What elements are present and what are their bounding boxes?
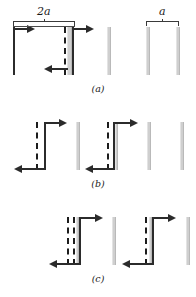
gray-strip-c-trail: [186, 217, 190, 265]
arrow-left-c-right: [122, 260, 130, 268]
gray-strip-b-left: [76, 122, 80, 170]
solid-line-c-left: [79, 217, 81, 265]
arrow-right-b-left: [59, 119, 67, 127]
gray-strip-b-trail-2: [180, 122, 184, 170]
panel-c: (c): [0, 195, 196, 297]
panel-a: 2a a (a): [0, 0, 196, 100]
dimension-bracket-a-tick: [162, 19, 163, 22]
arrow-right-c-left: [95, 214, 103, 222]
solid-line-a-left: [13, 27, 15, 75]
top-connector-b-right: [113, 122, 131, 124]
solid-line-c-right: [152, 217, 154, 265]
dashed-line-c-left-2: [73, 217, 75, 265]
arrow-left-b-right: [85, 165, 93, 173]
top-connector-c-right: [152, 217, 169, 219]
top-connector-a-left: [13, 28, 28, 30]
arrow-left-c-left: [49, 260, 57, 268]
panel-caption-c: (c): [0, 273, 196, 284]
top-connector-b-left: [44, 122, 60, 124]
solid-line-a-center-right: [72, 27, 74, 75]
solid-line-b-left: [44, 122, 46, 170]
top-connector-a-center: [73, 28, 87, 30]
dimension-label-2a: 2a: [37, 5, 51, 18]
dashed-line-b-left: [36, 122, 38, 170]
arrow-left-a: [44, 65, 52, 73]
bottom-connector-b-left: [22, 168, 46, 170]
bottom-connector-a: [52, 68, 68, 70]
figure-root: 2a a (a): [0, 0, 196, 297]
gray-strip-c-middle: [112, 217, 116, 265]
gray-strip-a-right-1: [146, 27, 150, 75]
dimension-bracket-2a-tick: [44, 19, 45, 22]
dimension-label-a: a: [159, 5, 166, 18]
gray-strip-a-right-2: [176, 27, 180, 75]
dashed-line-c-right: [145, 217, 147, 265]
arrow-right-c-right: [168, 214, 176, 222]
arrow-right-a-center: [86, 25, 94, 33]
gray-strip-b-right-inner: [115, 122, 118, 170]
arrow-right-b-right: [130, 119, 138, 127]
bottom-connector-b-right: [93, 168, 115, 170]
bottom-connector-c-left: [57, 263, 81, 265]
gray-strip-b-trail-1: [147, 122, 151, 170]
bottom-connector-c-right: [130, 263, 154, 265]
dashed-line-b-right: [107, 122, 109, 170]
panel-caption-a: (a): [0, 83, 196, 94]
gray-strip-a-middle: [107, 27, 111, 75]
arrow-left-b-left: [14, 165, 22, 173]
panel-caption-b: (b): [0, 178, 196, 189]
panel-b: (b): [0, 100, 196, 195]
dashed-line-c-left-1: [67, 217, 69, 265]
top-connector-c-left: [79, 217, 96, 219]
